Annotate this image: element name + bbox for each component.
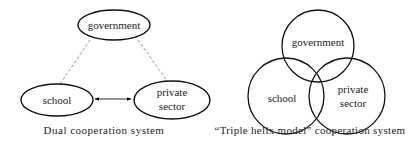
dual-cooperation-diagram: government school private sector Dual co…: [21, 10, 210, 136]
triple-helix-diagram: government school private sector “Triple…: [215, 10, 406, 136]
node-school-label: school: [43, 94, 72, 106]
circle-private-sector: [309, 58, 385, 134]
link-government-school: [60, 40, 90, 84]
circle-school-label: school: [268, 92, 297, 104]
circle-private-label-line1: private: [338, 83, 369, 95]
node-government: government: [78, 10, 150, 40]
dual-caption: Dual cooperation system: [44, 124, 165, 136]
circle-private-label-line2: sector: [340, 97, 367, 109]
node-private-label-line2: sector: [159, 100, 186, 112]
triple-helix-caption: “Triple helix model” cooperation system: [215, 124, 406, 136]
node-school: school: [21, 84, 93, 116]
diagram-canvas: government school private sector Dual co…: [0, 0, 408, 141]
node-private-sector: private sector: [134, 81, 210, 119]
node-government-label: government: [88, 19, 141, 31]
link-government-private: [138, 40, 168, 82]
circle-government-label: government: [292, 36, 345, 48]
node-private-label-line1: private: [157, 86, 188, 98]
